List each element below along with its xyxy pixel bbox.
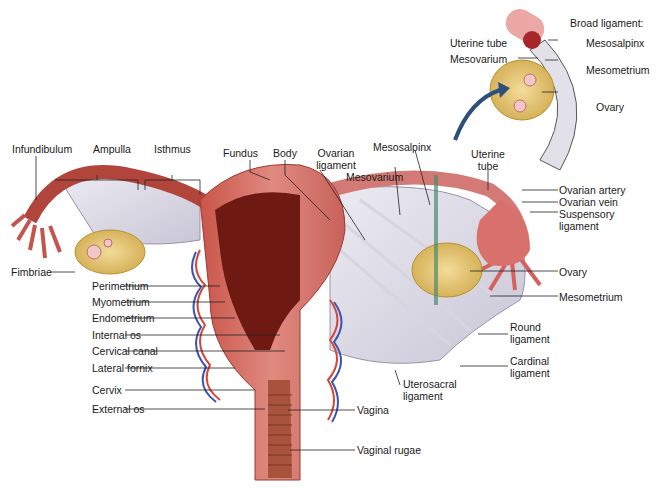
label-ovary: Ovary bbox=[559, 266, 587, 278]
anatomy-illustration bbox=[0, 0, 663, 494]
label-perimetrium: Perimetrium bbox=[92, 280, 149, 292]
label-cervical-canal: Cervical canal bbox=[92, 345, 158, 357]
inset-title: Broad ligament: bbox=[570, 17, 644, 29]
label-suspensory-ligament: Suspensory ligament bbox=[559, 208, 614, 232]
label-internal-os: Internal os bbox=[92, 329, 141, 341]
label-ovarian-vein: Ovarian vein bbox=[559, 196, 618, 208]
label-inset-mesosalpinx: Mesosalpinx bbox=[586, 37, 644, 49]
label-inset-uterine-tube: Uterine tube bbox=[450, 37, 507, 49]
label-cervix: Cervix bbox=[92, 384, 122, 396]
label-inset-ovary: Ovary bbox=[596, 101, 624, 113]
label-vaginal-rugae: Vaginal rugae bbox=[357, 444, 421, 456]
ovary-left bbox=[75, 230, 145, 274]
section-plane bbox=[434, 175, 438, 305]
label-mesosalpinx: Mesosalpinx bbox=[373, 141, 431, 153]
label-uterosacral-ligament: Uterosacral ligament bbox=[403, 378, 457, 402]
label-ovarian-artery: Ovarian artery bbox=[559, 184, 626, 196]
label-fimbriae: Fimbriae bbox=[11, 266, 52, 278]
label-cardinal-ligament: Cardinal ligament bbox=[510, 355, 550, 379]
anatomy-diagram: Broad ligament: Uterine tube Mesovarium … bbox=[0, 0, 663, 494]
label-lateral-fornix: Lateral fornix bbox=[92, 362, 153, 374]
label-inset-mesovarium: Mesovarium bbox=[450, 53, 507, 65]
label-endometrium: Endometrium bbox=[92, 312, 154, 324]
label-vagina: Vagina bbox=[357, 404, 389, 416]
label-ampulla: Ampulla bbox=[93, 143, 131, 155]
label-mesovarium: Mesovarium bbox=[346, 171, 403, 183]
label-isthmus: Isthmus bbox=[154, 143, 191, 155]
label-external-os: External os bbox=[92, 403, 145, 415]
label-round-ligament: Round ligament bbox=[510, 321, 550, 345]
label-mesometrium: Mesometrium bbox=[559, 291, 623, 303]
label-infundibulum: Infundibulum bbox=[12, 143, 72, 155]
label-ovarian-ligament: Ovarian ligament bbox=[312, 147, 360, 171]
ovary-right bbox=[412, 243, 482, 297]
label-fundus: Fundus bbox=[223, 147, 258, 159]
label-uterine-tube: Uterine tube bbox=[466, 148, 510, 172]
label-body: Body bbox=[273, 147, 297, 159]
label-myometrium: Myometrium bbox=[92, 296, 150, 308]
label-inset-mesometrium: Mesometrium bbox=[586, 64, 650, 76]
